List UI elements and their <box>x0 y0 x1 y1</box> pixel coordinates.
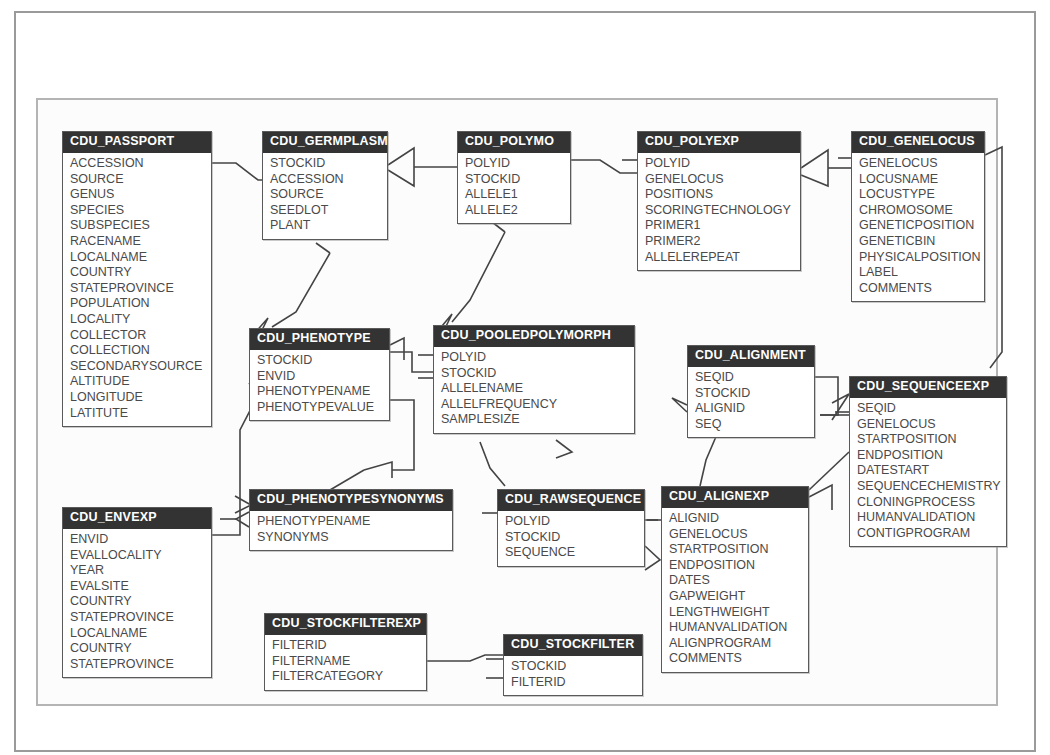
entity-field: ENDPOSITION <box>850 448 1006 464</box>
entity-field: SEQID <box>688 370 814 386</box>
entity-field-list: ACCESSIONSOURCEGENUSSPECIESSUBSPECIESRAC… <box>63 153 211 426</box>
entity-field: POLYID <box>458 156 570 172</box>
entity-field: ALIGNID <box>662 511 808 527</box>
entity-field: CONTIGPROGRAM <box>850 526 1006 542</box>
entity-field-list: STOCKIDENVIDPHENOTYPENAMEPHENOTYPEVALUE <box>250 350 389 420</box>
entity-field: GENETICPOSITION <box>852 218 984 234</box>
entity-field: GENETICBIN <box>852 234 984 250</box>
entity-field-list: FILTERIDFILTERNAMEFILTERCATEGORY <box>265 635 426 690</box>
entity-title: CDU_STOCKFILTEREXP <box>265 614 426 635</box>
entity-cdu-passport[interactable]: CDU_PASSPORTACCESSIONSOURCEGENUSSPECIESS… <box>62 131 212 427</box>
entity-field: COUNTRY <box>63 265 211 281</box>
entity-title: CDU_GENELOCUS <box>852 132 984 153</box>
entity-field-list: POLYIDSTOCKIDALLELENAMEALLELFREQUENCYSAM… <box>434 347 634 433</box>
entity-title: CDU_ENVEXP <box>63 508 211 529</box>
entity-field: LATITUTE <box>63 406 211 422</box>
entity-cdu-phenotype[interactable]: CDU_PHENOTYPESTOCKIDENVIDPHENOTYPENAMEPH… <box>249 328 390 421</box>
entity-title: CDU_POOLEDPOLYMORPH <box>434 326 634 347</box>
entity-cdu-sequenceexp[interactable]: CDU_SEQUENCEEXPSEQIDGENELOCUSSTARTPOSITI… <box>849 376 1007 547</box>
entity-cdu-polymo[interactable]: CDU_POLYMOPOLYIDSTOCKIDALLELE1ALLELE2 <box>457 131 571 224</box>
entity-field: COLLECTION <box>63 343 211 359</box>
entity-title: CDU_ALIGNEXP <box>662 487 808 508</box>
entity-field: PHENOTYPENAME <box>250 514 452 530</box>
entity-cdu-alignexp[interactable]: CDU_ALIGNEXPALIGNIDGENELOCUSSTARTPOSITIO… <box>661 486 809 673</box>
entity-cdu-polyexp[interactable]: CDU_POLYEXPPOLYIDGENELOCUSPOSITIONSSCORI… <box>637 131 801 271</box>
entity-field: POLYID <box>498 514 644 530</box>
entity-field: SECONDARYSOURCE <box>63 359 211 375</box>
entity-cdu-stockfilter[interactable]: CDU_STOCKFILTERSTOCKIDFILTERID <box>503 634 643 696</box>
entity-field: GENELOCUS <box>662 527 808 543</box>
entity-field: LABEL <box>852 265 984 281</box>
entity-field: ALIGNID <box>688 401 814 417</box>
entity-field: COUNTRY <box>63 641 211 657</box>
entity-field: SOURCE <box>63 172 211 188</box>
entity-field: PHYSICALPOSITION <box>852 250 984 266</box>
entity-field: ENVID <box>63 532 211 548</box>
entity-field: HUMANVALIDATION <box>662 620 808 636</box>
entity-field: POLYID <box>638 156 800 172</box>
entity-field: FILTERNAME <box>265 654 426 670</box>
entity-field-list: ALIGNIDGENELOCUSSTARTPOSITIONENDPOSITION… <box>662 508 808 672</box>
entity-field: LOCALNAME <box>63 250 211 266</box>
entity-field: DATES <box>662 573 808 589</box>
entity-field: CHROMOSOME <box>852 203 984 219</box>
entity-cdu-phenotypesynonyms[interactable]: CDU_PHENOTYPESYNONYMSPHENOTYPENAMESYNONY… <box>249 489 453 551</box>
entity-field: LOCUSTYPE <box>852 187 984 203</box>
entity-field: STOCKID <box>458 172 570 188</box>
entity-field: SAMPLESIZE <box>434 412 634 428</box>
entity-field: EVALLOCALITY <box>63 548 211 564</box>
entity-field: SEQ <box>688 417 814 433</box>
entity-cdu-stockfilterexp[interactable]: CDU_STOCKFILTEREXPFILTERIDFILTERNAMEFILT… <box>264 613 427 691</box>
entity-field: ACCESSION <box>63 156 211 172</box>
entity-field: STOCKID <box>498 530 644 546</box>
entity-field: ALTITUDE <box>63 374 211 390</box>
entity-field: LOCALITY <box>63 312 211 328</box>
entity-field: STOCKID <box>250 353 389 369</box>
entity-field: PHENOTYPEVALUE <box>250 400 389 416</box>
entity-field-list: SEQIDGENELOCUSSTARTPOSITIONENDPOSITIONDA… <box>850 398 1006 546</box>
entity-cdu-germplasm[interactable]: CDU_GERMPLASMSTOCKIDACCESSIONSOURCESEEDL… <box>262 131 388 240</box>
entity-cdu-envexp[interactable]: CDU_ENVEXPENVIDEVALLOCALITYYEAREVALSITEC… <box>62 507 212 678</box>
entity-field: POPULATION <box>63 296 211 312</box>
entity-field: STOCKID <box>688 386 814 402</box>
entity-title: CDU_RAWSEQUENCE <box>498 490 644 511</box>
entity-field-list: GENELOCUSLOCUSNAMELOCUSTYPECHROMOSOMEGEN… <box>852 153 984 301</box>
entity-title: CDU_POLYEXP <box>638 132 800 153</box>
entity-field: STATEPROVINCE <box>63 657 211 673</box>
entity-field: SUBSPECIES <box>63 218 211 234</box>
entity-field-list: POLYIDSTOCKIDALLELE1ALLELE2 <box>458 153 570 223</box>
entity-field-list: POLYIDSTOCKIDSEQUENCE <box>498 511 644 566</box>
entity-cdu-alignment[interactable]: CDU_ALIGNMENTSEQIDSTOCKIDALIGNIDSEQ <box>687 345 815 438</box>
entity-field: FILTERCATEGORY <box>265 669 426 685</box>
entity-field: STARTPOSITION <box>850 432 1006 448</box>
entity-title: CDU_POLYMO <box>458 132 570 153</box>
entity-title: CDU_PHENOTYPE <box>250 329 389 350</box>
entity-field: LOCUSNAME <box>852 172 984 188</box>
entity-title: CDU_ALIGNMENT <box>688 346 814 367</box>
entity-field-list: STOCKIDACCESSIONSOURCESEEDLOTPLANT <box>263 153 387 239</box>
entity-cdu-genelocus[interactable]: CDU_GENELOCUSGENELOCUSLOCUSNAMELOCUSTYPE… <box>851 131 985 302</box>
entity-field: GENELOCUS <box>850 417 1006 433</box>
entity-title: CDU_PHENOTYPESYNONYMS <box>250 490 452 511</box>
entity-cdu-pooledpolymorph[interactable]: CDU_POOLEDPOLYMORPHPOLYIDSTOCKIDALLELENA… <box>433 325 635 434</box>
entity-field: POSITIONS <box>638 187 800 203</box>
entity-field: GAPWEIGHT <box>662 589 808 605</box>
entity-field: LOCALNAME <box>63 626 211 642</box>
entity-field: PHENOTYPENAME <box>250 384 389 400</box>
entity-title: CDU_PASSPORT <box>63 132 211 153</box>
entity-cdu-rawsequence[interactable]: CDU_RAWSEQUENCEPOLYIDSTOCKIDSEQUENCE <box>497 489 645 567</box>
entity-field: STARTPOSITION <box>662 542 808 558</box>
entity-field: ALLELE2 <box>458 203 570 219</box>
diagram-page: CDU_PASSPORTACCESSIONSOURCEGENUSSPECIESS… <box>0 0 1050 755</box>
entity-field: DATESTART <box>850 463 1006 479</box>
entity-field: ALLELE1 <box>458 187 570 203</box>
entity-title: CDU_SEQUENCEEXP <box>850 377 1006 398</box>
entity-field: SEEDLOT <box>263 203 387 219</box>
entity-field: GENELOCUS <box>638 172 800 188</box>
entity-field: COUNTRY <box>63 594 211 610</box>
entity-field: LENGTHWEIGHT <box>662 605 808 621</box>
entity-field: COMMENTS <box>662 651 808 667</box>
entity-field: LONGITUDE <box>63 390 211 406</box>
entity-field: ALLELFREQUENCY <box>434 397 634 413</box>
entity-field-list: PHENOTYPENAMESYNONYMS <box>250 511 452 550</box>
